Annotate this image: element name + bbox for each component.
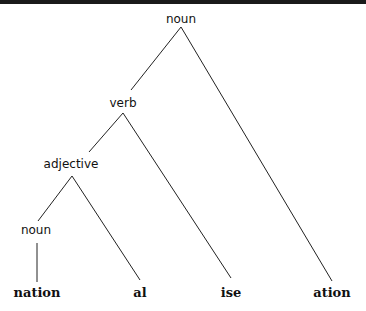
edge-adjective-to-noun — [38, 176, 72, 221]
edge-root-to-verb — [131, 27, 181, 90]
edge-root-to-ation — [181, 27, 332, 281]
node-root-noun: noun — [166, 12, 196, 26]
edge-verb-to-ise — [123, 113, 231, 278]
node-inner-noun: noun — [21, 223, 51, 237]
leaf-nation: nation — [14, 286, 61, 300]
tree-edges — [0, 0, 366, 311]
node-adjective: adjective — [44, 157, 99, 171]
leaf-ise: ise — [221, 286, 242, 300]
edge-verb-to-adjective — [89, 113, 123, 152]
node-verb: verb — [109, 96, 136, 110]
edge-adjective-to-al — [72, 176, 140, 280]
leaf-ation: ation — [313, 286, 351, 300]
leaf-al: al — [133, 286, 146, 300]
